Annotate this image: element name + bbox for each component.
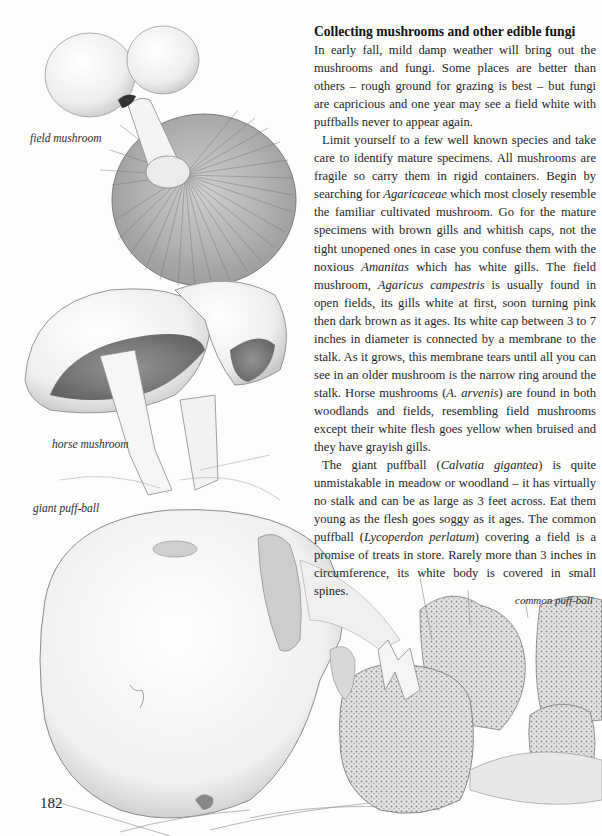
caption-horse-mushroom: horse mushroom xyxy=(52,438,129,450)
paragraph-1: In early fall, mild damp weather will br… xyxy=(314,41,596,131)
species-name: Amanitas xyxy=(361,260,409,274)
species-name: Agaricaceae xyxy=(383,187,447,201)
caption-giant-puffball: giant puff-ball xyxy=(33,502,99,514)
species-name: Agaricus campestris xyxy=(378,278,485,292)
paragraph-3: The giant puffball (Calvatia gigantea) i… xyxy=(314,456,596,600)
horse-mushroom-drawing xyxy=(25,281,286,500)
caption-field-mushroom: field mushroom xyxy=(30,132,101,144)
species-name: A. arvenis xyxy=(446,386,498,400)
page-number: 182 xyxy=(40,795,63,812)
field-mushroom-drawing xyxy=(45,26,296,286)
species-name: Calvatia gigantea xyxy=(441,458,538,472)
paragraph-2: Limit yourself to a few well known speci… xyxy=(314,131,596,456)
species-name: Lycoperdon perlatum xyxy=(364,530,475,544)
article-heading: Collecting mushrooms and other edible fu… xyxy=(314,24,596,40)
article-text-column: Collecting mushrooms and other edible fu… xyxy=(314,24,596,600)
